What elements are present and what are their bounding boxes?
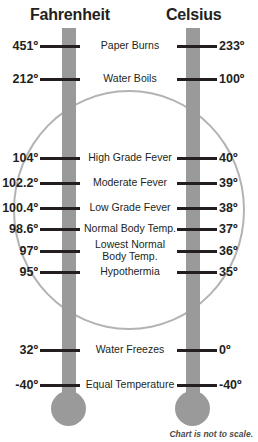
celsius-column-header: Celsius <box>166 6 222 24</box>
temperature-comparison-chart: Fahrenheit Celsius 451ºPaper Burns233º21… <box>0 0 258 442</box>
celsius-value: 38º <box>219 202 237 215</box>
celsius-tick-mark <box>177 207 217 210</box>
celsius-tick-mark <box>177 250 217 253</box>
celsius-value: 40º <box>219 152 237 165</box>
fahrenheit-value: 104º <box>13 152 38 165</box>
celsius-tick-mark <box>177 182 217 185</box>
temperature-description: High Grade Fever <box>84 152 176 164</box>
fahrenheit-tick-mark <box>40 45 80 48</box>
celsius-tick-mark <box>177 271 217 274</box>
fahrenheit-tick-mark <box>40 349 80 352</box>
fahrenheit-tick-mark <box>40 207 80 210</box>
celsius-value: 233º <box>219 40 244 53</box>
fahrenheit-tick-mark <box>40 228 80 231</box>
temperature-description: Equal Temperature <box>84 379 176 391</box>
celsius-tick-mark <box>177 78 217 81</box>
fahrenheit-thermometer-bulb <box>51 391 86 426</box>
fahrenheit-value: 212º <box>13 73 38 86</box>
celsius-tick-mark <box>177 384 217 387</box>
fahrenheit-tick-mark <box>40 271 80 274</box>
temperature-description: Hypothermia <box>84 266 176 278</box>
fahrenheit-value: 32º <box>20 344 38 357</box>
fahrenheit-tick-mark <box>40 182 80 185</box>
celsius-value: 36º <box>219 245 237 258</box>
fahrenheit-thermometer-tube <box>62 28 76 412</box>
celsius-tick-mark <box>177 349 217 352</box>
fahrenheit-value: -40º <box>15 379 38 392</box>
celsius-tick-mark <box>177 45 217 48</box>
fahrenheit-value: 100.4º <box>2 202 38 215</box>
celsius-value: 37º <box>219 223 237 236</box>
fahrenheit-value: 95º <box>20 266 38 279</box>
fahrenheit-tick-mark <box>40 250 80 253</box>
celsius-thermometer-bulb <box>175 391 210 426</box>
celsius-value: 35º <box>219 266 237 279</box>
celsius-value: -40º <box>219 379 242 392</box>
fahrenheit-tick-mark <box>40 157 80 160</box>
celsius-value: 39º <box>219 177 237 190</box>
temperature-description: Moderate Fever <box>84 177 176 189</box>
celsius-thermometer-tube <box>186 28 200 412</box>
fahrenheit-tick-mark <box>40 384 80 387</box>
celsius-tick-mark <box>177 157 217 160</box>
celsius-value: 0º <box>219 344 231 357</box>
fahrenheit-value: 98.6º <box>9 223 38 236</box>
fahrenheit-value: 451º <box>13 40 38 53</box>
chart-footnote: Chart is not to scale. <box>169 429 253 439</box>
temperature-description: Paper Burns <box>84 40 176 52</box>
temperature-description: Water Freezes <box>84 344 176 356</box>
fahrenheit-column-header: Fahrenheit <box>30 6 110 24</box>
fahrenheit-value: 102.2º <box>2 177 38 190</box>
fahrenheit-value: 97º <box>20 245 38 258</box>
fahrenheit-tick-mark <box>40 78 80 81</box>
temperature-description: Water Boils <box>84 73 176 85</box>
celsius-tick-mark <box>177 228 217 231</box>
temperature-description: Lowest Normal Body Temp. <box>84 239 176 262</box>
temperature-description: Normal Body Temp. <box>84 223 176 235</box>
celsius-value: 100º <box>219 73 244 86</box>
temperature-description: Low Grade Fever <box>84 202 176 214</box>
